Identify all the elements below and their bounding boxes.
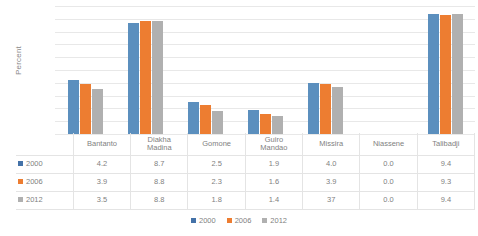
bar-series-layer [55,6,475,134]
bar-group [115,6,175,134]
table-cell: 1.6 [245,174,302,192]
legend-color-swatch-icon [191,218,196,223]
table-column-header: Talibadji [417,133,474,156]
table-column-header: Bantanto [73,133,130,156]
series-key-label: 2012 [26,196,43,205]
legend-color-swatch-icon [227,218,232,223]
bar-2006-bantanto [80,84,91,134]
legend-item-2006[interactable]: 2006 [227,216,252,225]
legend-item-label: 2000 [199,216,216,225]
table-cell: 4.0 [303,156,360,174]
table-row-header-2000: 2000 [16,156,73,174]
legend-item-2000[interactable]: 2000 [191,216,216,225]
table-cell: 9.4 [417,156,474,174]
bar-2006-talibadji [440,15,451,134]
table-column-header-line: Niassene [360,140,416,149]
table-column-header-line: Madina [131,144,187,153]
table-column-header-line: Gomone [188,140,244,149]
bar-group [295,6,355,134]
legend-item-2012[interactable]: 2012 [262,216,287,225]
bar-group [175,6,235,134]
table-header-row: BantantoDiakhaMadinaGomoneGuiroMandaoMis… [16,133,475,156]
plot-area [55,6,475,134]
table-cell: 2.5 [188,156,245,174]
bar-2000-diakha-madina [128,23,139,134]
legend-item-label: 2006 [235,216,252,225]
table-cell: 9.4 [417,192,474,210]
series-color-swatch-icon [18,179,23,184]
table-column-header-line: Talibadji [418,140,474,149]
table-column-header: DiakhaMadina [131,133,188,156]
table-cell: 1.9 [245,156,302,174]
series-color-swatch-icon [18,161,23,166]
table-cell: 9.3 [417,174,474,192]
table-cell: 0.0 [360,174,417,192]
bar-group [235,6,295,134]
table-corner-cell [16,133,73,156]
bar-2000-bantanto [68,80,79,134]
bar-2006-missira [320,84,331,134]
table-row: 20123.58.81.81.4370.09.4 [16,192,475,210]
table-row: 20004.28.72.51.94.00.09.4 [16,156,475,174]
series-key-label: 2000 [26,160,43,169]
table-column-header-line: Mandao [246,144,302,153]
table-cell: 0.0 [360,156,417,174]
table-column-header-line: Bantanto [74,140,130,149]
bar-2012-missira [332,87,343,134]
table-cell: 1.4 [245,192,302,210]
chart-data-table: BantantoDiakhaMadinaGomoneGuiroMandaoMis… [16,133,475,210]
bar-group [415,6,475,134]
bar-2012-guiro-mandao [272,116,283,134]
table-cell: 2.3 [188,174,245,192]
bar-chart-with-data-table: Percent BantantoDiakhaMadinaGomoneGuiroM… [0,0,478,236]
bar-2000-missira [308,83,319,134]
bar-group [55,6,115,134]
table-column-header: Missira [303,133,360,156]
table-cell: 0.0 [360,192,417,210]
table-cell: 8.7 [131,156,188,174]
data-table-header: BantantoDiakhaMadinaGomoneGuiroMandaoMis… [16,133,475,156]
bar-2006-diakha-madina [140,21,151,134]
series-color-swatch-icon [18,197,23,202]
bar-2012-diakha-madina [152,21,163,134]
table-cell: 37 [303,192,360,210]
table-column-header: Gomone [188,133,245,156]
table-column-header: GuiroMandao [245,133,302,156]
plot-wrapper: Percent [0,0,478,134]
y-axis-title: Percent [14,26,23,96]
table-column-header-line: Missira [303,140,359,149]
table-row: 20063.98.82.31.63.90.09.3 [16,174,475,192]
legend-item-label: 2012 [270,216,287,225]
table-cell: 3.9 [303,174,360,192]
bar-2000-guiro-mandao [248,110,259,134]
table-cell: 1.8 [188,192,245,210]
table-row-header-2012: 2012 [16,192,73,210]
table-cell: 3.9 [73,174,130,192]
table-cell: 4.2 [73,156,130,174]
bar-2000-talibadji [428,14,439,134]
bar-2006-guiro-mandao [260,114,271,134]
data-table-body: 20004.28.72.51.94.00.09.420063.98.82.31.… [16,156,475,210]
bar-2006-gomone [200,105,211,134]
bar-2012-gomone [212,111,223,134]
bar-2000-gomone [188,102,199,134]
bar-group [355,6,415,134]
legend-color-swatch-icon [262,218,267,223]
table-cell: 8.8 [131,192,188,210]
bar-2012-bantanto [92,89,103,134]
series-key-label: 2006 [26,178,43,187]
bar-2012-talibadji [452,14,463,134]
table-cell: 8.8 [131,174,188,192]
table-column-header: Niassene [360,133,417,156]
chart-legend: 200020062012 [0,216,478,225]
table-cell: 3.5 [73,192,130,210]
table-row-header-2006: 2006 [16,174,73,192]
